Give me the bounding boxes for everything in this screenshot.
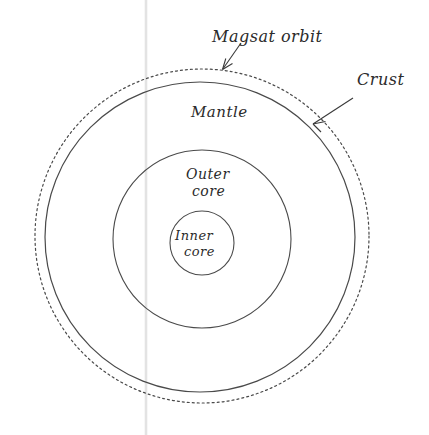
inner-core-label-line2: core: [184, 244, 215, 259]
outer-core-label-line1: Outer: [186, 166, 230, 182]
earth-structure-diagram: Magsat orbit Crust Mantle Outer core Inn…: [0, 0, 429, 435]
earth-diagram-canvas: Magsat orbit Crust Mantle Outer core Inn…: [0, 0, 429, 435]
inner-core-label-line1: Inner: [174, 228, 214, 243]
crust-label: Crust: [357, 70, 404, 89]
magsat-orbit-label: Magsat orbit: [211, 27, 323, 46]
outer-core-label-line2: core: [192, 183, 225, 199]
mantle-label: Mantle: [190, 103, 248, 121]
diagram-background: [0, 0, 429, 435]
